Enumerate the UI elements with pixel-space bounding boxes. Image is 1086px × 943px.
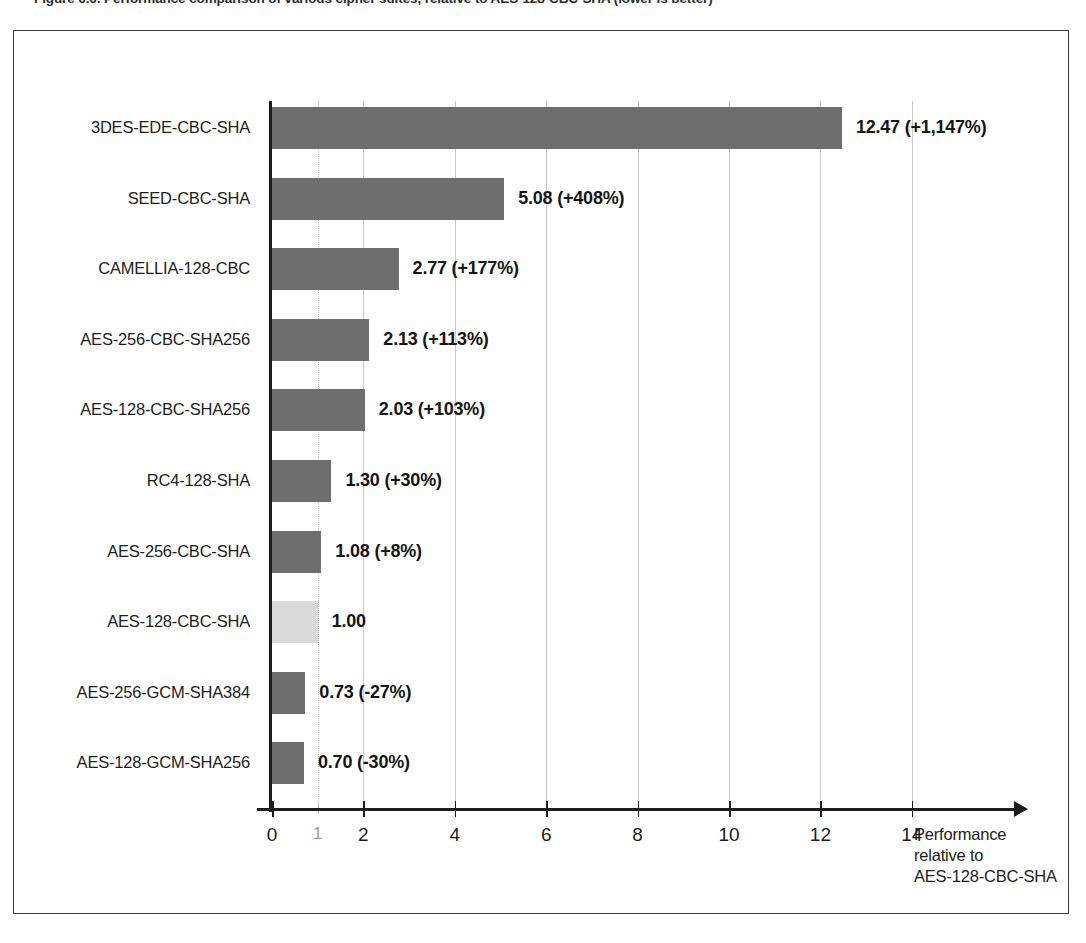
bar-aes-256-cbc-sha256[interactable]: [272, 319, 369, 361]
bar-aes-256-gcm-sha384[interactable]: [272, 672, 305, 714]
x-tick-label-4: 4: [425, 824, 485, 846]
x-axis-line: [257, 808, 1019, 811]
bar-rc4-128-sha[interactable]: [272, 460, 331, 502]
bar-row: AES-128-CBC-SHA1.00: [14, 601, 1070, 643]
bar-value-label-camellia-128-cbc: 2.77 (+177%): [413, 258, 519, 279]
category-label-camellia-128-cbc: CAMELLIA-128-CBC: [14, 259, 250, 278]
bar-aes-128-gcm-sha256[interactable]: [272, 742, 304, 784]
figure-frame: 3DES-EDE-CBC-SHA12.47 (+1,147%)SEED-CBC-…: [13, 30, 1069, 914]
category-label-aes-128-cbc-sha256: AES-128-CBC-SHA256: [14, 400, 250, 419]
category-label-aes-256-cbc-sha256: AES-256-CBC-SHA256: [14, 330, 250, 349]
bar-aes-128-cbc-sha[interactable]: [272, 601, 318, 643]
bar-value-label-aes-256-cbc-sha: 1.08 (+8%): [335, 541, 422, 562]
x-axis-arrow-icon: [1014, 801, 1028, 817]
bar-row: AES-256-CBC-SHA1.08 (+8%): [14, 531, 1070, 573]
bar-value-label-3des-ede-cbc-sha: 12.47 (+1,147%): [856, 117, 987, 138]
x-axis-title-line-3: AES-128-CBC-SHA: [914, 866, 1057, 887]
chart-plot-area: 3DES-EDE-CBC-SHA12.47 (+1,147%)SEED-CBC-…: [14, 31, 1070, 915]
bar-row: 3DES-EDE-CBC-SHA12.47 (+1,147%): [14, 107, 1070, 149]
bar-row: AES-128-GCM-SHA2560.70 (-30%): [14, 742, 1070, 784]
category-label-aes-256-cbc-sha: AES-256-CBC-SHA: [14, 542, 250, 561]
bar-3des-ede-cbc-sha[interactable]: [272, 107, 842, 149]
x-tick-label-6: 6: [516, 824, 576, 846]
category-label-seed-cbc-sha: SEED-CBC-SHA: [14, 189, 250, 208]
bar-value-label-aes-128-cbc-sha256: 2.03 (+103%): [379, 399, 485, 420]
bar-row: AES-128-CBC-SHA2562.03 (+103%): [14, 389, 1070, 431]
category-label-aes-128-cbc-sha: AES-128-CBC-SHA: [14, 612, 250, 631]
x-tick-label-8: 8: [608, 824, 668, 846]
bar-row: SEED-CBC-SHA5.08 (+408%): [14, 178, 1070, 220]
category-label-aes-128-gcm-sha256: AES-128-GCM-SHA256: [14, 753, 250, 772]
bar-value-label-seed-cbc-sha: 5.08 (+408%): [518, 188, 624, 209]
bar-row: CAMELLIA-128-CBC2.77 (+177%): [14, 248, 1070, 290]
x-axis-title-line-2: relative to: [914, 845, 1057, 866]
bar-row: AES-256-GCM-SHA3840.73 (-27%): [14, 672, 1070, 714]
x-tick-label-12: 12: [790, 824, 850, 846]
x-tick-label-10: 10: [699, 824, 759, 846]
bar-row: RC4-128-SHA1.30 (+30%): [14, 460, 1070, 502]
bar-aes-256-cbc-sha[interactable]: [272, 531, 321, 573]
y-axis-line: [269, 101, 272, 812]
category-label-3des-ede-cbc-sha: 3DES-EDE-CBC-SHA: [14, 118, 250, 137]
x-tick-label-2: 2: [333, 824, 393, 846]
bar-camellia-128-cbc[interactable]: [272, 248, 399, 290]
bar-value-label-aes-256-gcm-sha384: 0.73 (-27%): [319, 682, 411, 703]
bar-row: AES-256-CBC-SHA2562.13 (+113%): [14, 319, 1070, 361]
x-axis-title: Performance relative to AES-128-CBC-SHA: [914, 824, 1057, 887]
bar-value-label-aes-256-cbc-sha256: 2.13 (+113%): [383, 329, 488, 350]
category-label-aes-256-gcm-sha384: AES-256-GCM-SHA384: [14, 683, 250, 702]
bar-value-label-aes-128-cbc-sha: 1.00: [332, 611, 366, 632]
figure-caption: Figure 6.6. Performance comparison of va…: [34, 0, 1034, 6]
x-axis-title-line-1: Performance: [914, 824, 1057, 845]
category-label-rc4-128-sha: RC4-128-SHA: [14, 471, 250, 490]
bar-value-label-rc4-128-sha: 1.30 (+30%): [345, 470, 441, 491]
bar-value-label-aes-128-gcm-sha256: 0.70 (-30%): [318, 752, 410, 773]
bar-aes-128-cbc-sha256[interactable]: [272, 389, 365, 431]
bar-seed-cbc-sha[interactable]: [272, 178, 504, 220]
